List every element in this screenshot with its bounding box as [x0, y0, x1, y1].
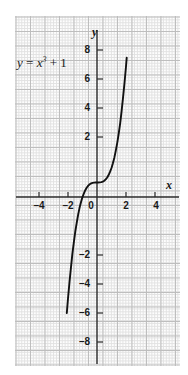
equation-lhs: y [17, 55, 23, 70]
equation-constant: 1 [60, 55, 67, 70]
y-tick-marks [97, 50, 103, 342]
x-tick-label-4: 4 [149, 201, 163, 211]
x-tick-label-neg2: –2 [59, 201, 77, 211]
y-tick-label-neg4: –4 [68, 279, 90, 289]
y-tick-label-2: 2 [72, 132, 90, 142]
x-tick-label-0: 0 [84, 201, 98, 211]
equation-exponent: 3 [42, 55, 46, 64]
y-tick-label-8: 8 [72, 45, 90, 55]
y-tick-label-6: 6 [72, 74, 90, 84]
y-tick-label-4: 4 [72, 103, 90, 113]
y-tick-label-neg6: –6 [68, 308, 90, 318]
equation-label: y = x3 + 1 [17, 56, 67, 69]
x-tick-label-neg4: –4 [30, 201, 48, 211]
x-tick-label-2: 2 [119, 201, 133, 211]
equation-plus: + [50, 55, 57, 70]
x-axis-label: x [166, 179, 172, 191]
equation-equals: = [26, 55, 33, 70]
y-axis-label: y [92, 26, 97, 38]
graph-figure: y = x3 + 1 y x –4 –2 0 2 4 8 6 4 2 –2 –4… [0, 0, 188, 375]
y-tick-label-neg2: –2 [68, 250, 90, 260]
y-tick-label-neg8: –8 [68, 337, 90, 347]
